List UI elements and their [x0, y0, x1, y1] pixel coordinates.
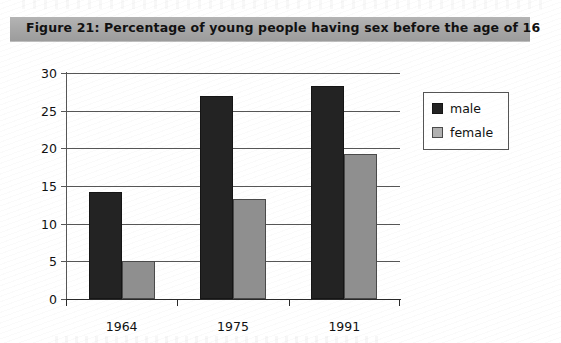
x-tick-label-1991: 1991 — [328, 319, 360, 334]
legend-label-female: female — [450, 125, 493, 140]
y-gridline — [66, 111, 400, 112]
bar-female-1975 — [233, 199, 266, 299]
bar-male-1975 — [200, 96, 233, 299]
bar-male-1964 — [89, 192, 122, 299]
legend-swatch-male-icon — [432, 103, 443, 114]
y-gridline — [66, 148, 400, 149]
x-tick-mark — [289, 299, 290, 306]
y-tick-label: 10 — [41, 216, 57, 231]
page-text-artifact-top — [22, 0, 542, 9]
legend-item-female: female — [432, 125, 493, 140]
y-tick-label: 20 — [41, 141, 57, 156]
plot-area: 051015202530196419751991 — [66, 73, 400, 299]
y-tick-mark — [61, 148, 66, 149]
legend-label-male: male — [450, 101, 481, 116]
y-tick-label: 25 — [41, 103, 57, 118]
bar-female-1964 — [122, 261, 155, 299]
x-tick-mark — [177, 299, 178, 306]
y-tick-label: 5 — [49, 254, 57, 269]
y-tick-label: 30 — [41, 66, 57, 81]
bar-female-1991 — [344, 154, 377, 299]
y-tick-mark — [61, 261, 66, 262]
x-axis-line — [66, 299, 401, 300]
page-text-artifact-bottom — [55, 336, 385, 343]
y-tick-mark — [61, 73, 66, 74]
figure-title: Figure 21: Percentage of young people ha… — [26, 20, 540, 35]
y-gridline — [66, 73, 400, 74]
y-tick-mark — [61, 111, 66, 112]
x-tick-label-1975: 1975 — [217, 319, 249, 334]
figure-title-banner: Figure 21: Percentage of young people ha… — [10, 17, 530, 41]
y-tick-mark — [61, 224, 66, 225]
legend-item-male: male — [432, 101, 481, 116]
x-tick-mark-end — [399, 299, 400, 306]
x-tick-mark — [66, 299, 67, 306]
bar-male-1991 — [311, 86, 344, 299]
x-tick-label-1964: 1964 — [106, 319, 138, 334]
chart-legend: male female — [423, 92, 509, 150]
legend-swatch-female-icon — [432, 127, 443, 138]
y-tick-label: 15 — [41, 179, 57, 194]
y-tick-mark — [61, 186, 66, 187]
y-tick-label: 0 — [49, 292, 57, 307]
